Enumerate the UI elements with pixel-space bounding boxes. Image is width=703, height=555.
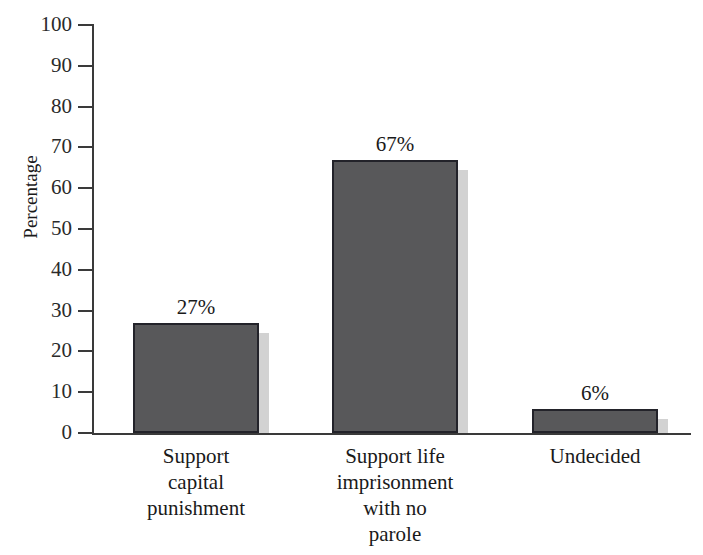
x-axis-category-line: capital: [101, 469, 291, 495]
y-axis-tick-label: 20: [14, 340, 72, 361]
bar-value-label: 67%: [335, 133, 455, 155]
x-axis-category-line: parole: [300, 521, 490, 547]
bar[interactable]: [532, 409, 658, 433]
y-axis-tick: [78, 228, 93, 230]
y-axis-tick: [78, 187, 93, 189]
y-axis-tick: [78, 65, 93, 67]
y-axis-tick-label: 90: [14, 55, 72, 76]
bar-value-label: 27%: [136, 296, 256, 318]
y-axis-tick-label: 10: [14, 381, 72, 402]
y-axis-tick: [78, 24, 93, 26]
y-axis-tick: [78, 391, 93, 393]
y-axis-tick-label: 60: [14, 177, 72, 198]
chart-title-cropped: [0, 0, 703, 13]
y-axis-tick-label: 40: [14, 259, 72, 280]
x-axis-category-line: Support life: [300, 443, 490, 469]
y-axis-tick-label: 80: [14, 96, 72, 117]
bar[interactable]: [133, 323, 259, 433]
x-axis-category-label: Undecided: [500, 443, 690, 469]
y-axis-tick: [78, 146, 93, 148]
x-axis-category-line: imprisonment: [300, 469, 490, 495]
y-axis-tick: [78, 432, 93, 434]
x-axis-category-line: Support: [101, 443, 291, 469]
y-axis-tick: [78, 106, 93, 108]
bar[interactable]: [332, 160, 458, 433]
y-axis-tick: [78, 269, 93, 271]
bar-chart: Percentage 1009080706050403020100 27%67%…: [0, 0, 703, 555]
x-axis-category-label: Supportcapitalpunishment: [101, 443, 291, 521]
x-axis-category-line: with no: [300, 495, 490, 521]
y-axis-tick-label: 70: [14, 136, 72, 157]
y-axis-tick: [78, 350, 93, 352]
y-axis-tick-label: 50: [14, 218, 72, 239]
x-axis-category-label: Support lifeimprisonmentwith noparole: [300, 443, 490, 547]
y-axis-tick: [78, 310, 93, 312]
y-axis-tick-label: 30: [14, 300, 72, 321]
x-axis-category-line: punishment: [101, 495, 291, 521]
x-axis-line: [92, 433, 691, 435]
bar-value-label: 6%: [535, 382, 655, 404]
x-axis-category-line: Undecided: [500, 443, 690, 469]
y-axis-tick-label: 0: [14, 422, 72, 443]
y-axis-tick-label: 100: [14, 14, 72, 35]
